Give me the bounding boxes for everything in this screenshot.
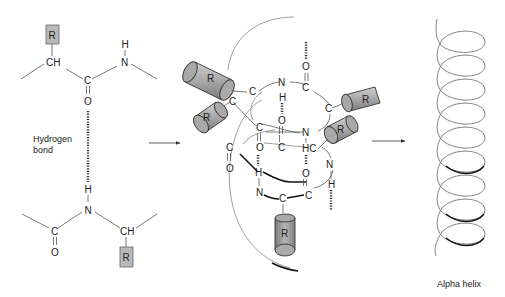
svg-text:C: C <box>226 142 233 153</box>
svg-text:C: C <box>278 142 285 153</box>
svg-text:R: R <box>207 73 214 84</box>
svg-text:H: H <box>328 179 335 190</box>
svg-text:C: C <box>279 193 286 204</box>
svg-text:C: C <box>302 82 309 93</box>
svg-text:N: N <box>256 187 263 198</box>
svg-text:O: O <box>278 115 286 126</box>
left-panel: R CH C N H O Hydrogen bond H N C <box>21 25 157 267</box>
svg-text:C: C <box>325 103 332 114</box>
amide-h-label: H <box>85 184 92 195</box>
hydrogen-bond-label-line1: Hydrogen <box>33 134 72 144</box>
svg-text:R: R <box>281 228 288 239</box>
svg-text:C: C <box>229 96 236 107</box>
carbonyl-o-label: O <box>84 96 92 107</box>
right-panel-alpha-helix: Alpha helix <box>435 19 485 289</box>
r-cylinder-bottom: R <box>275 214 295 256</box>
svg-text:R: R <box>203 112 210 123</box>
svg-text:H: H <box>279 92 286 103</box>
svg-text:C: C <box>305 190 312 201</box>
carbonyl-c-label: C <box>84 75 91 86</box>
svg-text:H: H <box>255 167 262 178</box>
svg-text:O: O <box>256 142 264 153</box>
r-cylinder-upper-left: R <box>180 59 247 102</box>
svg-text:N: N <box>278 77 285 88</box>
middle-panel: C C N H C O C O C O N C O C HC <box>180 17 380 271</box>
hydrogen-bond-label-line2: bond <box>33 145 53 155</box>
alpha-helix-diagram: R CH C N H O Hydrogen bond H N C <box>0 0 505 297</box>
bottom-residue: H N C O CH R <box>22 184 157 267</box>
svg-text:N: N <box>326 159 333 170</box>
top-residue: R CH C N H O <box>21 25 157 107</box>
svg-text:O: O <box>302 61 310 72</box>
r-group-label: R <box>49 30 56 41</box>
svg-text:O: O <box>226 163 234 174</box>
atom-labels: C C N H C O C O C O N C O C HC <box>226 42 335 213</box>
r-group-label: R <box>123 252 130 263</box>
carbonyl-c-label: C <box>51 226 58 237</box>
alpha-helix-caption: Alpha helix <box>437 279 482 289</box>
r-cylinder-right-lower: R <box>318 114 361 149</box>
svg-text:C: C <box>256 122 263 133</box>
svg-text:R: R <box>337 124 344 135</box>
svg-text:R: R <box>362 94 369 105</box>
amide-n-label: N <box>85 205 92 216</box>
svg-text:HC: HC <box>302 143 316 154</box>
svg-text:C: C <box>249 86 256 97</box>
amide-n-label: N <box>121 57 128 68</box>
alpha-carbon-label: CH <box>120 226 134 237</box>
amide-h-label: H <box>122 39 129 50</box>
svg-text:O: O <box>302 168 310 179</box>
r-cylinder-right-upper: R <box>332 87 380 113</box>
r-cylinder-left: R <box>190 100 230 136</box>
alpha-carbon-label: CH <box>46 57 60 68</box>
carbonyl-o-label: O <box>51 247 59 258</box>
svg-text:N: N <box>302 127 309 138</box>
